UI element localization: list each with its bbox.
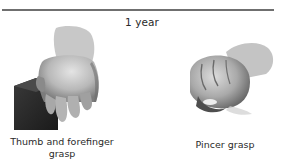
caption-pincer-grasp: Pincer grasp [180, 139, 270, 151]
hand-pincer-illustration [172, 34, 282, 124]
header-rule [2, 9, 274, 11]
caption-thumb-forefinger-grasp: Thumb and forefinger grasp [8, 136, 116, 160]
hand-holding-block-illustration [8, 26, 128, 136]
